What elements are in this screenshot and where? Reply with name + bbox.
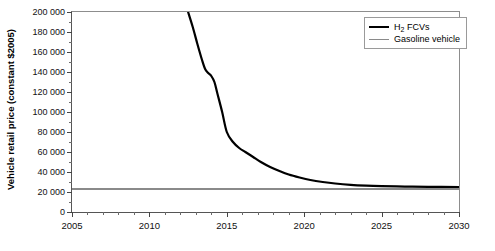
y-tick-major bbox=[67, 152, 72, 153]
x-tick-minor bbox=[351, 212, 352, 215]
y-tick-major bbox=[67, 172, 72, 173]
x-tick-minor bbox=[289, 212, 290, 215]
x-tick-major bbox=[72, 212, 73, 217]
y-tick-minor bbox=[69, 102, 72, 103]
y-tick-label: 180 000 bbox=[32, 27, 65, 37]
x-tick-minor bbox=[335, 212, 336, 215]
y-tick-minor bbox=[69, 202, 72, 203]
y-tick-label: 120 000 bbox=[32, 87, 65, 97]
y-tick-major bbox=[67, 132, 72, 133]
x-tick-minor bbox=[320, 212, 321, 215]
x-tick-major bbox=[304, 212, 305, 217]
x-tick-major bbox=[149, 212, 150, 217]
x-tick-major bbox=[227, 212, 228, 217]
y-tick-major bbox=[67, 32, 72, 33]
x-tick-label: 2030 bbox=[448, 220, 469, 231]
x-tick-minor bbox=[196, 212, 197, 215]
x-tick-major bbox=[382, 212, 383, 217]
x-tick-minor bbox=[180, 212, 181, 215]
x-tick-label: 2020 bbox=[294, 220, 315, 231]
legend-swatch-h2-fcvs bbox=[369, 26, 389, 28]
y-tick-label: 80 000 bbox=[37, 127, 65, 137]
legend-item-gasoline-vehicle: Gasoline vehicle bbox=[369, 33, 460, 45]
x-tick-label: 2010 bbox=[139, 220, 160, 231]
x-tick-major bbox=[459, 212, 460, 217]
y-tick-major bbox=[67, 192, 72, 193]
y-tick-label: 40 000 bbox=[37, 167, 65, 177]
x-tick-label: 2025 bbox=[371, 220, 392, 231]
legend-label-gasoline-vehicle: Gasoline vehicle bbox=[394, 34, 460, 44]
y-tick-minor bbox=[69, 162, 72, 163]
legend-swatch-gasoline-vehicle bbox=[369, 39, 389, 40]
x-tick-minor bbox=[87, 212, 88, 215]
y-tick-major bbox=[67, 12, 72, 13]
x-tick-label: 2015 bbox=[216, 220, 237, 231]
y-tick-label: 200 000 bbox=[32, 7, 65, 17]
x-tick-minor bbox=[242, 212, 243, 215]
y-tick-label: 160 000 bbox=[32, 47, 65, 57]
legend-item-h2-fcvs: H2 FCVs bbox=[369, 21, 460, 33]
x-tick-minor bbox=[211, 212, 212, 215]
x-tick-minor bbox=[273, 212, 274, 215]
y-tick-minor bbox=[69, 42, 72, 43]
x-tick-minor bbox=[428, 212, 429, 215]
y-tick-minor bbox=[69, 22, 72, 23]
x-tick-minor bbox=[397, 212, 398, 215]
y-tick-label: 100 000 bbox=[32, 107, 65, 117]
y-tick-major bbox=[67, 52, 72, 53]
y-tick-minor bbox=[69, 122, 72, 123]
x-tick-minor bbox=[103, 212, 104, 215]
y-tick-major bbox=[67, 112, 72, 113]
y-tick-major bbox=[67, 92, 72, 93]
y-tick-label: 20 000 bbox=[37, 187, 65, 197]
y-tick-minor bbox=[69, 62, 72, 63]
legend-label-h2-fcvs: H2 FCVs bbox=[394, 22, 429, 32]
chart-figure: Vehicle retail price (constant $2005) 02… bbox=[0, 0, 495, 251]
y-axis-title-text: Vehicle retail price (constant $2005) bbox=[6, 28, 17, 189]
y-tick-minor bbox=[69, 182, 72, 183]
x-tick-minor bbox=[413, 212, 414, 215]
x-tick-minor bbox=[165, 212, 166, 215]
chart-legend: H2 FCVs Gasoline vehicle bbox=[364, 17, 467, 49]
x-tick-minor bbox=[134, 212, 135, 215]
y-tick-major bbox=[67, 72, 72, 73]
y-tick-label: 0 bbox=[60, 207, 65, 217]
x-tick-minor bbox=[258, 212, 259, 215]
y-tick-label: 60 000 bbox=[37, 147, 65, 157]
y-axis-title: Vehicle retail price (constant $2005) bbox=[0, 0, 22, 218]
x-tick-minor bbox=[118, 212, 119, 215]
y-tick-minor bbox=[69, 82, 72, 83]
y-tick-label: 140 000 bbox=[32, 67, 65, 77]
x-tick-label: 2005 bbox=[61, 220, 82, 231]
y-tick-minor bbox=[69, 142, 72, 143]
x-tick-minor bbox=[444, 212, 445, 215]
x-tick-minor bbox=[366, 212, 367, 215]
